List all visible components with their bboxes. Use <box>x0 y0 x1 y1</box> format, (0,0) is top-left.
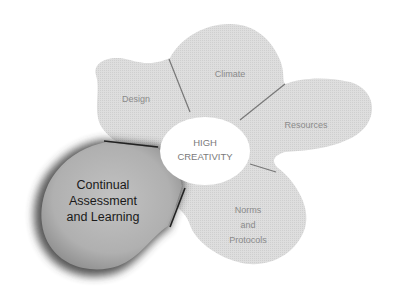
highlight-label-2: Assessment <box>69 194 138 208</box>
petal-label-climate: Climate <box>215 69 246 79</box>
highlight-label-1: Continual <box>77 178 130 192</box>
center-label-line1: HIGH <box>193 137 217 148</box>
petal-label-norms-1: Norms <box>235 205 262 215</box>
center-label-line2: CREATIVITY <box>177 151 233 162</box>
petal-label-norms-2: and <box>240 220 255 230</box>
petal-label-norms-3: Protocols <box>229 235 267 245</box>
creativity-diagram: HIGH CREATIVITY Design Climate Resources… <box>0 0 401 306</box>
petal-label-resources: Resources <box>284 120 328 130</box>
petal-label-design: Design <box>122 94 150 104</box>
highlight-label-3: and Learning <box>67 210 140 224</box>
